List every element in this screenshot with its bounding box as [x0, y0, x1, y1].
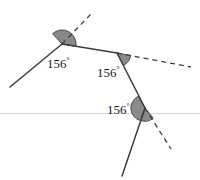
degree-symbol-2: °: [117, 65, 120, 74]
dashed-extension-group: [62, 12, 191, 149]
segment-top: [62, 44, 117, 53]
segment-bottom: [122, 108, 145, 176]
angle-label-3: 156°: [107, 103, 130, 116]
degree-symbol-1: °: [67, 56, 70, 65]
geometry-diagram: 156° 156° 156°: [0, 0, 200, 180]
angle-label-1-value: 156: [47, 56, 67, 71]
angle-label-2-value: 156: [97, 65, 117, 80]
segment-middle: [117, 53, 145, 108]
degree-symbol-3: °: [127, 102, 130, 111]
angle-label-2: 156°: [97, 66, 120, 79]
angle-label-1: 156°: [47, 57, 70, 70]
diagram-canvas: [0, 0, 200, 180]
angle-label-3-value: 156: [107, 102, 127, 117]
